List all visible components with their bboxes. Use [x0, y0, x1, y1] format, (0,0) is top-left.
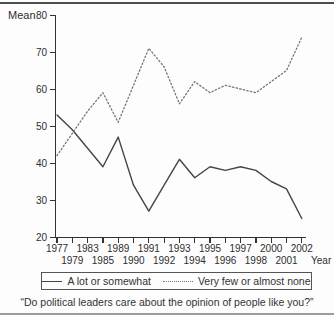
y-tick-label: 30 — [36, 195, 48, 206]
line-chart: Mean Year 203040506070801977197919831985… — [0, 0, 334, 270]
y-axis-title: Mean — [8, 9, 36, 21]
x-tick-label: 1989 — [107, 243, 130, 254]
x-tick-label: 1994 — [184, 255, 207, 266]
legend: A lot or somewhat Very few or almost non… — [41, 272, 312, 290]
x-tick-label: 1983 — [76, 243, 99, 254]
y-tick-label: 20 — [36, 232, 48, 243]
x-tick-label: 1992 — [153, 255, 176, 266]
y-tick-label: 80 — [36, 10, 48, 21]
y-tick-label: 70 — [36, 47, 48, 58]
caption: “Do political leaders care about the opi… — [0, 296, 334, 308]
y-tick-label: 60 — [36, 84, 48, 95]
x-tick-label: 1996 — [214, 255, 237, 266]
legend-label-very-few-or-almost-none: Very few or almost none — [198, 275, 311, 287]
x-tick-label: 1997 — [229, 243, 252, 254]
y-tick-label: 50 — [36, 121, 48, 132]
x-tick-label: 1998 — [245, 255, 268, 266]
x-axis-title: Year — [311, 255, 332, 266]
x-tick-label: 1985 — [92, 255, 115, 266]
series-line-dotted — [57, 37, 302, 155]
x-tick-label: 1979 — [61, 255, 84, 266]
legend-key-solid-line — [42, 281, 62, 282]
series-line-solid — [57, 115, 302, 219]
legend-label-a-lot-or-somewhat: A lot or somewhat — [67, 275, 150, 287]
x-tick-label: 1977 — [46, 243, 69, 254]
figure: Mean Year 203040506070801977197919831985… — [0, 0, 334, 319]
x-tick-label: 2001 — [275, 255, 298, 266]
x-tick-label: 1991 — [138, 243, 161, 254]
legend-key-dotted-line — [163, 281, 193, 282]
x-tick-label: 1995 — [199, 243, 222, 254]
bottom-rule — [0, 313, 334, 315]
y-tick-label: 40 — [36, 158, 48, 169]
x-tick-label: 1990 — [122, 255, 145, 266]
x-tick-label: 2002 — [291, 243, 314, 254]
x-tick-label: 2000 — [260, 243, 283, 254]
x-tick-label: 1993 — [168, 243, 191, 254]
